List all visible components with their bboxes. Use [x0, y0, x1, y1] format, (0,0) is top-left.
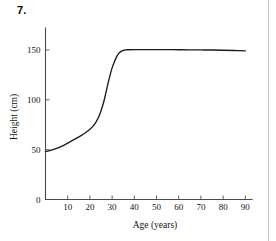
- x-axis-title: Age (years): [133, 220, 178, 231]
- figure-container: 7. 050100150 102030405060708090 Height (…: [0, 0, 276, 241]
- x-tick-label: 40: [130, 202, 140, 212]
- x-tick-label: 60: [174, 202, 184, 212]
- y-axis-ticks: 050100150: [27, 45, 50, 205]
- x-tick-label: 80: [219, 202, 229, 212]
- x-tick-label: 30: [108, 202, 118, 212]
- y-tick-label: 0: [36, 195, 41, 205]
- height-vs-age-line-chart: 050100150 102030405060708090 Height (cm)…: [0, 0, 276, 241]
- x-tick-label: 70: [196, 202, 206, 212]
- y-tick-label: 50: [32, 145, 42, 155]
- x-axis-ticks: 102030405060708090: [63, 196, 250, 213]
- y-tick-label: 100: [27, 95, 41, 105]
- x-tick-label: 20: [85, 202, 95, 212]
- y-tick-label: 150: [27, 45, 41, 55]
- x-tick-label: 90: [241, 202, 251, 212]
- height-curve: [46, 50, 246, 152]
- y-axis-title: Height (cm): [9, 94, 20, 140]
- x-tick-label: 10: [63, 202, 73, 212]
- x-tick-label: 50: [152, 202, 162, 212]
